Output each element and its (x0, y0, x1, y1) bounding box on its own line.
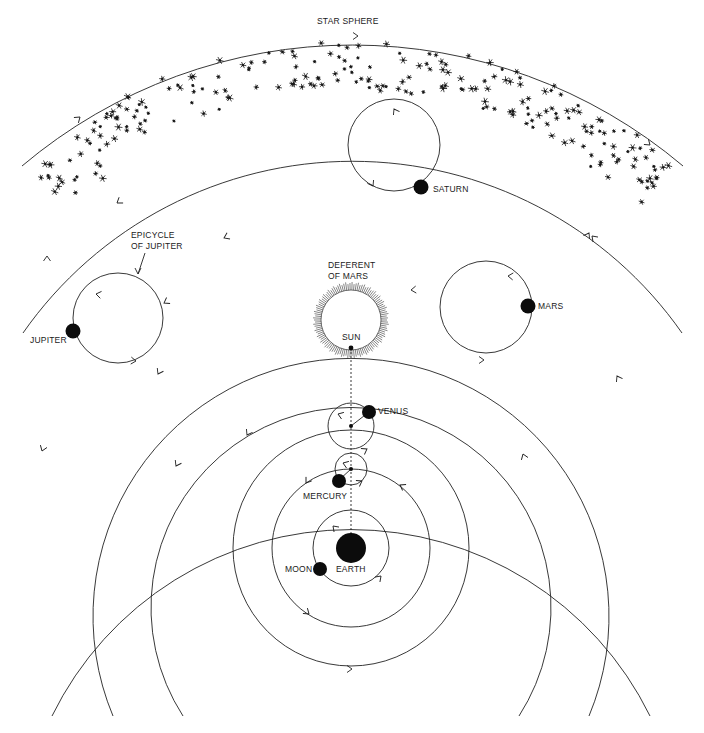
ptolemaic-system-diagram: STAR SPHERE SATURN EPICYCLE OF JUPITER J… (0, 0, 704, 733)
label-earth: EARTH (336, 564, 366, 574)
saturn-planet (414, 180, 429, 195)
label-moon: MOON (285, 564, 312, 574)
label-saturn: SATURN (433, 184, 469, 194)
label-jupiter: JUPITER (30, 335, 67, 345)
venus-epicycle-center (349, 424, 353, 428)
label-venus: VENUS (378, 406, 408, 416)
epicycle-pointer-arrow (135, 253, 145, 274)
label-deferent-2: OF MARS (328, 271, 368, 281)
label-mars: MARS (538, 301, 563, 311)
moon-body (313, 562, 327, 576)
label-epicycle-1: EPICYCLE (131, 230, 175, 240)
venus-planet (362, 405, 376, 419)
label-mercury: MERCURY (303, 491, 347, 501)
label-deferent-1: DEFERENT (328, 260, 375, 270)
label-star-sphere: STAR SPHERE (317, 16, 379, 26)
mercury-epicycle-center (349, 467, 353, 471)
label-epicycle-2: OF JUPITER (131, 241, 183, 251)
jupiter-planet (66, 324, 81, 339)
direction-arrows (39, 33, 653, 673)
mars-planet (521, 299, 536, 314)
stars (38, 40, 672, 204)
mercury-planet (332, 474, 346, 488)
jupiter-epicycle (73, 273, 163, 363)
label-sun: SUN (342, 332, 361, 342)
earth-body (336, 533, 366, 563)
mars-epicycle (440, 261, 532, 353)
sun-center (349, 346, 354, 351)
